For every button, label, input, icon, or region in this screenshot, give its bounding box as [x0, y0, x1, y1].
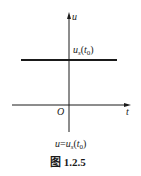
x-axis-label: t [126, 107, 129, 117]
eq-close: ) [83, 138, 86, 149]
equation-caption: u=us(t0) [55, 139, 86, 151]
line-label-close: ) [90, 44, 93, 55]
figure-caption: 图 1.2.5 [50, 157, 86, 168]
origin-label: O [57, 107, 64, 117]
line-value-label: us(t0) [73, 45, 94, 57]
y-axis-label: u [72, 12, 77, 22]
y-axis-arrow-icon [67, 12, 71, 19]
